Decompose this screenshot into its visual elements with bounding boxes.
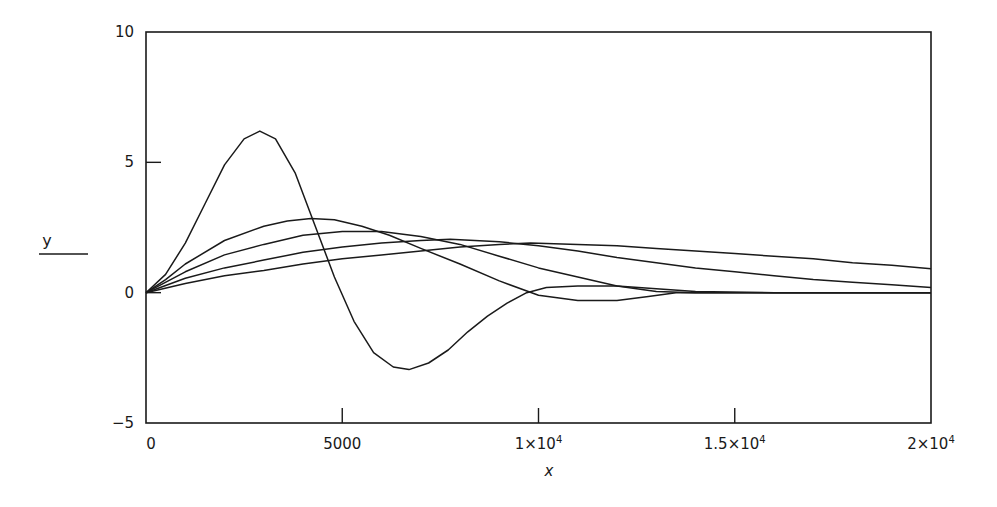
- y-tick-label: 0: [124, 284, 134, 302]
- x-tick-label: 5000: [323, 435, 361, 453]
- x-tick-label: 2×104: [907, 434, 955, 453]
- y-axis-label: y: [42, 231, 51, 250]
- line-chart: −50510 050001×1041.5×1042×104 x y: [0, 0, 997, 507]
- series-line-3: [146, 231, 931, 292]
- y-tick-label: 10: [115, 23, 134, 41]
- y-tick-label: 5: [124, 153, 134, 171]
- x-axis-label: x: [544, 462, 554, 480]
- y-tick-label: −5: [112, 414, 134, 432]
- series-line-4: [146, 239, 931, 293]
- x-axis-ticks: 050001×1041.5×1042×104: [146, 408, 955, 453]
- plot-frame: [146, 32, 931, 423]
- x-tick-label: 1.5×104: [704, 434, 766, 453]
- y-axis-ticks: −50510: [112, 23, 161, 432]
- x-tick-label: 1×104: [515, 434, 563, 453]
- plot-curves: [146, 131, 931, 370]
- series-line-1: [146, 131, 931, 370]
- x-tick-label: 0: [146, 435, 156, 453]
